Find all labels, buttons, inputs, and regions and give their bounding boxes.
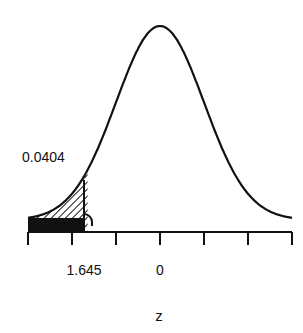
- tail-area-label: 0.0404: [22, 149, 65, 165]
- density-curve: [28, 26, 292, 218]
- x-axis-label: z: [155, 307, 163, 324]
- normal-curve-chart: [0, 0, 303, 333]
- x-axis: [28, 232, 292, 245]
- critical-value-label: 1.645: [66, 262, 101, 278]
- zero-tick-label: 0: [156, 262, 164, 278]
